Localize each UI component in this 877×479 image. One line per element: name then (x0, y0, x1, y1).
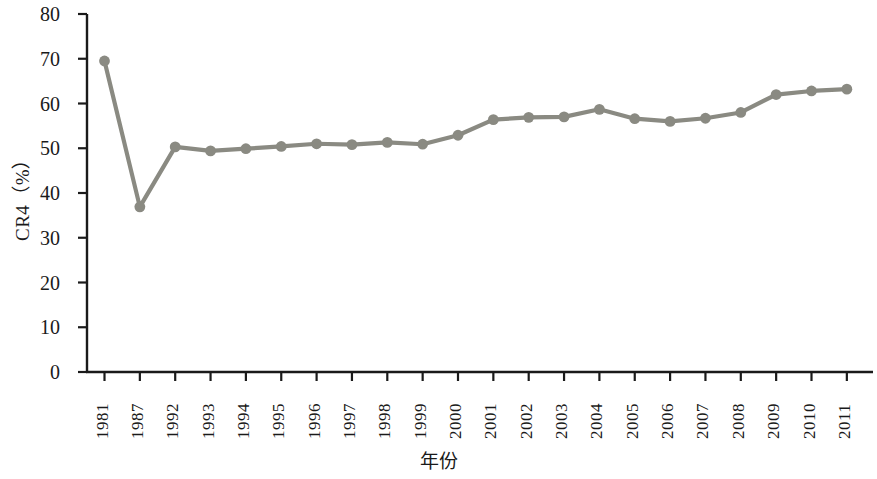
data-point-marker (559, 112, 570, 123)
data-point-marker (347, 139, 358, 150)
data-point-marker (841, 84, 852, 95)
plot-area (0, 0, 877, 479)
data-point-marker (170, 142, 181, 153)
data-point-marker (700, 113, 711, 124)
data-point-marker (665, 116, 676, 127)
data-point-marker (134, 201, 145, 212)
data-point-marker (417, 139, 428, 150)
data-point-marker (488, 114, 499, 125)
data-point-marker (594, 104, 605, 115)
data-point-marker (99, 56, 110, 67)
data-point-marker (453, 130, 464, 141)
data-point-marker (382, 137, 393, 148)
data-point-marker (735, 107, 746, 118)
data-point-marker (276, 141, 287, 152)
data-point-marker (241, 143, 252, 154)
data-point-marker (205, 146, 216, 157)
x-axis-title: 年份 (0, 446, 877, 473)
data-point-marker (523, 112, 534, 123)
data-point-marker (771, 89, 782, 100)
chart-container: CR4（%） 01020304050607080 198119871992199… (0, 0, 877, 479)
data-point-marker (806, 86, 817, 97)
series-line-cr4 (105, 61, 847, 207)
data-point-marker (311, 138, 322, 149)
data-point-marker (629, 113, 640, 124)
